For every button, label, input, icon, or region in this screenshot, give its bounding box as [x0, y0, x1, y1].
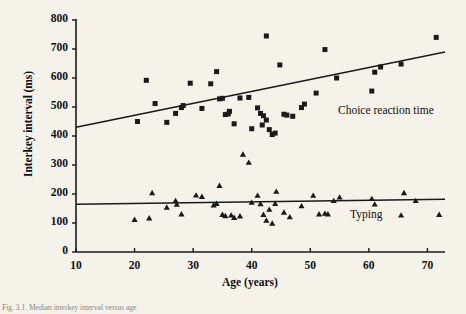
data-point-choice-reaction-time [153, 101, 158, 106]
data-point-choice-reaction-time [372, 70, 377, 75]
data-point-choice-reaction-time [314, 91, 319, 96]
data-point-choice-reaction-time [273, 131, 278, 136]
data-point-choice-reaction-time [369, 89, 374, 94]
y-tick-label: 700 [34, 41, 68, 53]
data-point-choice-reaction-time [238, 96, 243, 101]
data-point-choice-reaction-time [227, 109, 232, 114]
x-tick-label: 10 [61, 259, 91, 271]
data-point-choice-reaction-time [214, 69, 219, 74]
x-tick-label: 60 [354, 259, 384, 271]
data-point-choice-reaction-time [208, 81, 213, 86]
x-tick-label: 70 [412, 259, 442, 271]
y-tick-label: 600 [34, 70, 68, 82]
data-point-choice-reaction-time [188, 81, 193, 86]
x-axis-label: Age (years) [160, 276, 340, 288]
data-point-choice-reaction-time [249, 126, 254, 131]
x-tick-label: 30 [178, 259, 208, 271]
data-point-choice-reaction-time [264, 118, 269, 123]
y-tick-label: 100 [34, 215, 68, 227]
data-point-choice-reaction-time [220, 96, 225, 101]
data-point-choice-reaction-time [264, 33, 269, 38]
data-point-choice-reaction-time [261, 113, 266, 118]
data-point-choice-reaction-time [255, 105, 260, 110]
data-point-choice-reaction-time [267, 127, 272, 132]
data-point-choice-reaction-time [277, 62, 282, 67]
y-tick-label: 400 [34, 128, 68, 140]
x-tick-label: 50 [295, 259, 325, 271]
data-point-choice-reaction-time [181, 103, 186, 108]
y-tick-label: 300 [34, 157, 68, 169]
series-annotation-typing: Typing [350, 208, 382, 220]
data-point-choice-reaction-time [144, 78, 149, 83]
data-point-choice-reaction-time [399, 62, 404, 67]
data-point-choice-reaction-time [322, 47, 327, 52]
data-point-choice-reaction-time [246, 95, 251, 100]
data-point-choice-reaction-time [284, 113, 289, 118]
data-point-choice-reaction-time [290, 114, 295, 119]
y-tick-label: 0 [34, 244, 68, 256]
y-axis-label: Interkey interval (ms) [22, 44, 34, 204]
data-point-choice-reaction-time [302, 102, 307, 107]
figure-caption: Fig. 3.1. Median interkey interval versu… [2, 303, 302, 312]
y-tick-label: 200 [34, 186, 68, 198]
series-annotation-choice-reaction-time: Choice reaction time [338, 104, 434, 116]
data-point-choice-reaction-time [135, 119, 140, 124]
x-tick-label: 40 [237, 259, 267, 271]
data-point-choice-reaction-time [334, 76, 339, 81]
data-point-choice-reaction-time [199, 106, 204, 111]
data-point-choice-reaction-time [164, 120, 169, 125]
data-point-choice-reaction-time [434, 35, 439, 40]
y-tick-label: 500 [34, 99, 68, 111]
data-point-choice-reaction-time [232, 121, 237, 126]
data-point-choice-reaction-time [260, 122, 265, 127]
data-point-choice-reaction-time [173, 111, 178, 116]
data-point-choice-reaction-time [378, 64, 383, 69]
x-tick-label: 20 [120, 259, 150, 271]
y-tick-label: 800 [34, 12, 68, 24]
